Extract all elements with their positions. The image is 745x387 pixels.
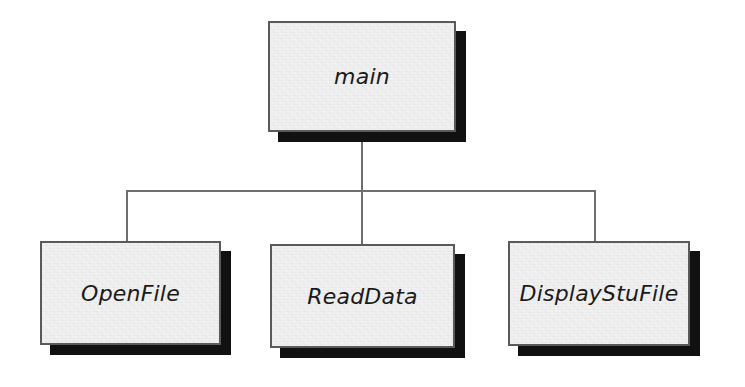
connector-main-trunk: [361, 132, 363, 244]
connector-drop-displaystufile: [594, 190, 596, 241]
module-label-main: main: [334, 64, 390, 89]
module-box-openfile[interactable]: OpenFile: [40, 241, 221, 345]
module-face: ReadData: [270, 244, 455, 348]
module-box-main[interactable]: main: [268, 21, 456, 132]
module-face: DisplayStuFile: [508, 241, 690, 346]
module-label-openfile: OpenFile: [81, 281, 180, 306]
structure-chart-diagram: main OpenFile ReadData DisplayStuFile: [0, 0, 745, 387]
module-box-displaystufile[interactable]: DisplayStuFile: [508, 241, 690, 346]
module-label-readdata: ReadData: [307, 284, 417, 309]
module-face: OpenFile: [40, 241, 221, 345]
module-face: main: [268, 21, 456, 132]
module-label-displaystufile: DisplayStuFile: [520, 281, 679, 306]
connector-drop-openfile: [126, 190, 128, 241]
module-box-readdata[interactable]: ReadData: [270, 244, 455, 348]
connector-horizontal-bus: [126, 190, 596, 192]
